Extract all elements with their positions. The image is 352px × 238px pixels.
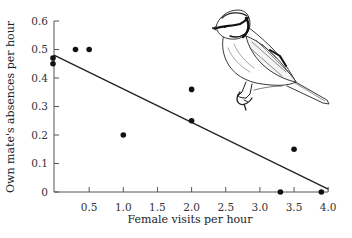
y-tick-label: 0.5 [31, 43, 48, 55]
y-tick-label: 0 [41, 186, 48, 198]
y-ticks: 00.10.20.30.40.50.6 [31, 15, 59, 198]
data-point [189, 118, 195, 124]
y-tick-label: 0.6 [31, 15, 48, 27]
x-tick-label: 1.0 [115, 201, 132, 213]
x-tick-label: 3.0 [252, 201, 269, 213]
y-tick-label: 0.3 [31, 100, 48, 112]
x-tick-label: 2.5 [217, 201, 234, 213]
data-point [121, 132, 127, 138]
scatter-chart: 00.10.20.30.40.50.6 0.51.01.52.02.53.03.… [0, 0, 352, 238]
data-point [73, 47, 79, 53]
data-point [319, 189, 325, 195]
x-tick-label: 3.5 [286, 201, 303, 213]
axes [54, 21, 328, 192]
x-ticks: 0.51.01.52.02.53.03.54.0 [81, 187, 337, 213]
data-point [50, 61, 56, 67]
data-point [86, 47, 92, 53]
x-tick-label: 0.5 [81, 201, 98, 213]
x-tick-label: 1.5 [149, 201, 166, 213]
data-point [189, 87, 195, 93]
y-tick-label: 0.4 [31, 72, 48, 84]
y-axis-label: Own mate's absences per hour [4, 20, 17, 193]
y-tick-label: 0.1 [31, 157, 48, 169]
data-point [291, 146, 297, 152]
bird-illustration-icon [212, 10, 329, 110]
x-axis-label: Female visits per hour [128, 213, 254, 226]
x-tick-label: 2.0 [183, 201, 200, 213]
x-tick-label: 4.0 [320, 201, 337, 213]
data-point [278, 189, 284, 195]
y-tick-label: 0.2 [31, 129, 48, 141]
data-point [50, 55, 56, 61]
